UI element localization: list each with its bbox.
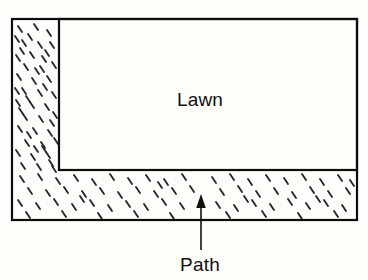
path-label: Path bbox=[180, 254, 220, 275]
lawn-path-diagram: Lawn Path bbox=[0, 0, 368, 280]
diagram-canvas: Lawn Path bbox=[0, 0, 368, 280]
lawn-label: Lawn bbox=[177, 89, 223, 110]
